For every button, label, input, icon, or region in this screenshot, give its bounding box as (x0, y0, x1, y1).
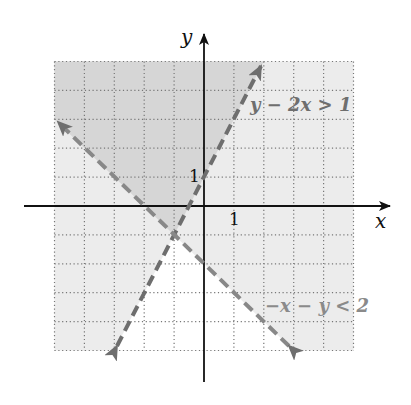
x-axis-label: x (375, 209, 386, 233)
inequality-graph: y x 1 1 y − 2x > 1 −x − y < 2 (0, 0, 411, 405)
inequality-label-1: y − 2x > 1 (249, 94, 351, 115)
y-axis-label: y (180, 25, 193, 49)
x-tick-label: 1 (229, 209, 240, 229)
inequality-label-2: −x − y < 2 (265, 295, 369, 316)
y-tick-label: 1 (189, 166, 200, 186)
